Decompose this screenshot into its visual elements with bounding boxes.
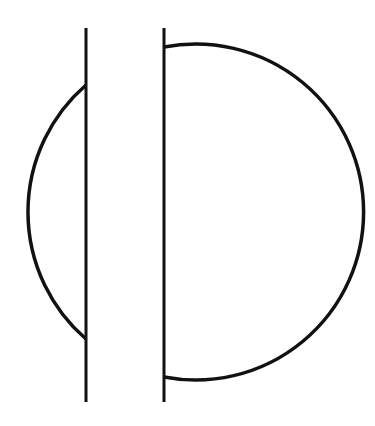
diagram-canvas bbox=[0, 0, 375, 426]
background bbox=[0, 0, 375, 426]
